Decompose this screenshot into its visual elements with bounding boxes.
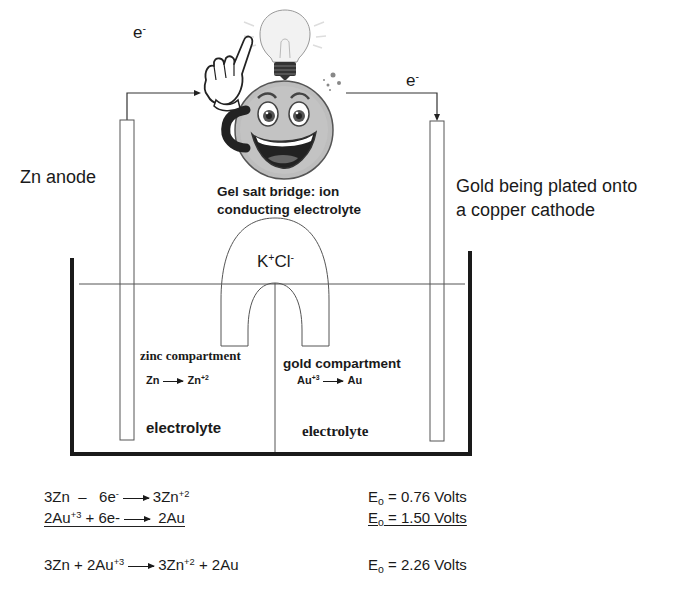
- potassium-charge: +: [268, 251, 274, 263]
- eq-term: 3Zn: [153, 488, 179, 505]
- chloride-charge: -: [291, 251, 295, 263]
- eq-term: 2Au: [158, 509, 185, 526]
- eq-charge: +2: [184, 557, 195, 567]
- salt-formula: K+Cl-: [257, 253, 294, 270]
- eo-value: = 2.26 Volts: [388, 556, 467, 573]
- eo-symbol: E: [368, 488, 378, 505]
- zinc-half-reaction: ZnZn+2: [146, 375, 209, 386]
- reaction-arrow-icon: [123, 498, 149, 499]
- electrochemical-cell-diagram: [0, 0, 679, 597]
- chloride-symbol: Cl: [275, 252, 291, 271]
- wire-arrow-left-icon: [194, 90, 201, 96]
- equation-overall: 3Zn + 2Au+33Zn+2 + 2Au: [44, 557, 239, 572]
- potential-zinc: Eo = 0.76 Volts: [368, 489, 467, 504]
- eq-charge: -: [116, 489, 119, 499]
- reactant: Au: [297, 374, 312, 386]
- zinc-compartment-title: zinc compartment: [140, 349, 241, 362]
- reaction-arrow-icon: [124, 519, 150, 520]
- eo-symbol: E: [368, 556, 378, 573]
- gold-electrolyte-label: electrolyte: [302, 424, 368, 439]
- eq-term: 6e: [99, 488, 116, 505]
- eo-subscript: o: [378, 563, 384, 575]
- salt-bridge-label-line2: conducting electrolyte: [217, 203, 361, 217]
- smiley-face-icon: [235, 81, 333, 179]
- copper-cathode-electrode: [430, 121, 444, 441]
- eo-subscript: o: [378, 516, 384, 528]
- reactant: Zn: [146, 374, 159, 386]
- light-bulb-icon: [244, 10, 326, 80]
- electron-charge: -: [142, 22, 146, 34]
- electron-label-right: e-: [406, 72, 419, 89]
- external-circuit-wire-left: [127, 93, 196, 120]
- reaction-arrow-icon: [323, 381, 343, 382]
- salt-bridge-label-line1: Gel salt bridge: ion: [217, 185, 339, 199]
- equation-zinc-oxidation: 3Zn – 6e-3Zn+2: [44, 489, 189, 504]
- eo-value: = 1.50 Volts: [388, 509, 467, 526]
- eq-term: 2Au: [44, 509, 71, 526]
- external-circuit-wire-right: [346, 93, 437, 116]
- product: Zn: [187, 374, 200, 386]
- anode-label: Zn anode: [20, 168, 96, 186]
- electron-label-left: e-: [133, 24, 146, 41]
- product-charge: +2: [201, 374, 209, 381]
- potassium-symbol: K: [257, 252, 268, 271]
- eo-subscript: o: [378, 495, 384, 507]
- reaction-arrow-icon: [163, 381, 183, 382]
- electron-charge: -: [415, 70, 419, 82]
- eo-value: = 0.76 Volts: [388, 488, 467, 505]
- gold-half-reaction: Au+3Au: [297, 375, 362, 386]
- reaction-arrow-icon: [128, 566, 154, 567]
- eq-charge: +2: [179, 489, 190, 499]
- potential-gold: Eo = 1.50 Volts: [368, 510, 467, 525]
- cathode-label-line2: a copper cathode: [456, 201, 595, 219]
- eq-term: + 6e-: [85, 509, 120, 526]
- zinc-anode-electrode: [120, 120, 134, 440]
- eq-charge: +3: [114, 557, 125, 567]
- cathode-label-line1: Gold being plated onto: [456, 177, 637, 195]
- wire-arrow-right-icon: [434, 114, 440, 121]
- eq-term: + 2Au: [199, 556, 239, 573]
- eq-term: 3Zn: [158, 556, 184, 573]
- potential-overall: Eo = 2.26 Volts: [368, 557, 467, 572]
- tank-right-wall: [468, 251, 472, 455]
- zinc-electrolyte-label: electrolyte: [146, 420, 221, 435]
- eq-charge: +3: [71, 510, 82, 520]
- tank-bottom: [70, 452, 472, 456]
- eq-term: 3Zn: [44, 488, 70, 505]
- sparkle-dots-icon: [323, 73, 341, 92]
- tank-left-wall: [70, 258, 74, 456]
- product: Au: [347, 374, 362, 386]
- reactant-charge: +3: [312, 374, 320, 381]
- eo-symbol: E: [368, 509, 378, 526]
- eq-operator: –: [78, 488, 86, 505]
- equation-gold-reduction: 2Au+3 + 6e- 2Au: [44, 510, 185, 527]
- eq-term: 3Zn + 2Au: [44, 556, 114, 573]
- gold-compartment-title: gold compartment: [283, 357, 401, 371]
